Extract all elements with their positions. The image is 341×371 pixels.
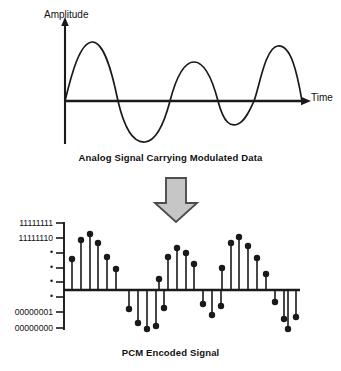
pcm-figure: Amplitude Time Analog Signal Carrying Mo…	[0, 0, 341, 371]
pcm-ytick-label-1: 11111110	[0, 233, 53, 243]
arrow-down-shape	[155, 178, 197, 222]
pcm-ytick-label-6: 00000001	[0, 307, 53, 317]
pcm-ytick-label-3: •	[0, 263, 53, 272]
pcm-ytick-label-2: •	[0, 248, 53, 257]
analog-x-axis-label: Time	[311, 92, 333, 103]
pcm-caption: PCM Encoded Signal	[0, 347, 341, 358]
pcm-ytick-label-4: •	[0, 277, 53, 286]
pcm-ytick-label-5: •	[0, 292, 53, 301]
analog-waveform	[65, 42, 302, 142]
analog-y-axis-label: Amplitude	[44, 9, 88, 20]
pcm-ytick-label-7: 00000000	[0, 323, 53, 333]
pcm-y-ticks	[56, 223, 64, 328]
pcm-ytick-label-0: 11111111	[0, 218, 53, 228]
analog-caption: Analog Signal Carrying Modulated Data	[0, 152, 341, 163]
pcm-stems	[70, 232, 299, 332]
arrow-down-icon	[150, 176, 202, 224]
analog-signal-chart	[0, 0, 341, 150]
